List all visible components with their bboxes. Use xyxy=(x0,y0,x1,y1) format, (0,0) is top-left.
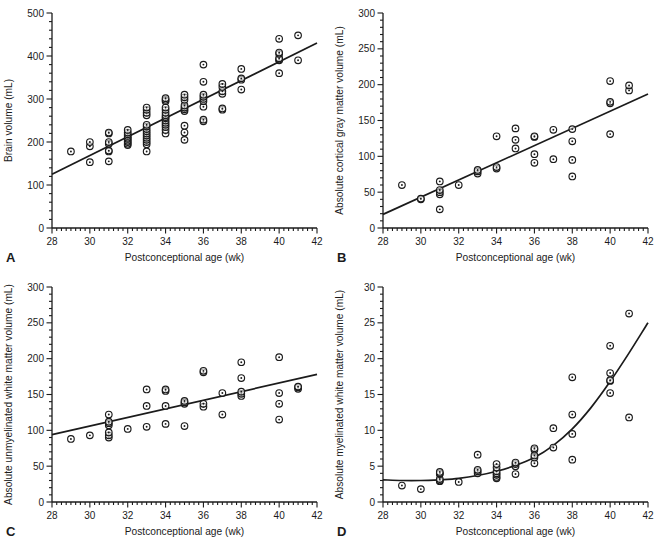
y-tick-label: 0 xyxy=(38,223,44,234)
data-point xyxy=(162,104,169,111)
data-point xyxy=(512,145,519,152)
y-tick-label: 250 xyxy=(358,43,375,54)
data-point xyxy=(105,147,112,154)
x-tick-label: 38 xyxy=(567,510,579,521)
data-point xyxy=(200,79,207,86)
panel-a-plot: 01002003004005002830323436384042Brain vo… xyxy=(0,0,331,274)
x-axis-ticks xyxy=(383,502,648,508)
panel-letter: C xyxy=(6,524,16,539)
x-axis-title: Postconceptional age (wk) xyxy=(456,252,575,263)
data-point xyxy=(436,178,443,185)
data-point xyxy=(238,86,245,93)
x-tick-label: 30 xyxy=(84,236,96,247)
data-point xyxy=(512,471,519,478)
data-point xyxy=(181,91,188,98)
y-tick-label: 400 xyxy=(27,51,44,62)
y-tick-label: 150 xyxy=(27,389,44,400)
data-point xyxy=(295,57,302,64)
y-axis-ticks xyxy=(378,287,384,502)
data-point xyxy=(569,173,576,180)
data-point xyxy=(200,116,207,123)
data-point xyxy=(607,131,614,138)
data-point xyxy=(569,157,576,164)
x-tick-label: 34 xyxy=(491,236,503,247)
y-axis-title: Brain volume (mL) xyxy=(3,79,14,162)
data-point xyxy=(276,401,283,408)
data-point xyxy=(550,444,557,451)
y-tick-label: 50 xyxy=(33,461,45,472)
data-point xyxy=(219,105,226,112)
data-point xyxy=(162,421,169,428)
data-point xyxy=(512,459,519,466)
y-tick-label: 250 xyxy=(27,317,44,328)
panel-a: 01002003004005002830323436384042Brain vo… xyxy=(0,0,331,274)
data-point xyxy=(531,445,538,452)
y-tick-label: 0 xyxy=(369,223,375,234)
data-point xyxy=(143,423,150,430)
y-axis-ticks xyxy=(47,287,53,502)
x-axis-ticks xyxy=(52,502,317,508)
data-point xyxy=(455,479,462,486)
data-point xyxy=(124,127,131,134)
data-point xyxy=(181,137,188,144)
data-point xyxy=(512,125,519,132)
data-point xyxy=(87,159,94,166)
data-point xyxy=(162,386,169,393)
y-tick-label: 300 xyxy=(27,282,44,293)
x-tick-label: 32 xyxy=(122,236,134,247)
y-tick-label: 0 xyxy=(38,497,44,508)
y-axis-title: Absolute myelinated white matter volume … xyxy=(334,290,345,500)
data-point xyxy=(105,418,112,425)
data-point xyxy=(143,104,150,111)
x-tick-label: 28 xyxy=(46,510,58,521)
y-axis-ticks xyxy=(378,13,384,228)
data-point xyxy=(607,78,614,85)
data-point xyxy=(569,456,576,463)
data-point xyxy=(550,127,557,134)
four-panel-scatter-figure: 01002003004005002830323436384042Brain vo… xyxy=(0,0,662,548)
data-points xyxy=(399,310,633,492)
x-tick-label: 38 xyxy=(236,510,248,521)
x-tick-label: 38 xyxy=(236,236,248,247)
data-point xyxy=(68,436,75,443)
y-tick-label: 300 xyxy=(27,94,44,105)
x-axis-title: Postconceptional age (wk) xyxy=(125,252,244,263)
data-point xyxy=(219,81,226,88)
data-point xyxy=(200,61,207,68)
y-tick-label: 50 xyxy=(364,187,376,198)
data-point xyxy=(200,91,207,98)
data-point xyxy=(238,66,245,73)
y-tick-label: 30 xyxy=(364,282,376,293)
data-point xyxy=(181,398,188,405)
data-point xyxy=(531,159,538,166)
data-point xyxy=(607,99,614,106)
data-point xyxy=(219,390,226,397)
data-point xyxy=(512,137,519,144)
y-tick-label: 10 xyxy=(364,425,376,436)
data-point xyxy=(181,122,188,129)
data-point xyxy=(493,133,500,140)
data-point xyxy=(531,151,538,158)
x-tick-label: 36 xyxy=(529,510,541,521)
axes xyxy=(52,13,317,228)
data-point xyxy=(124,426,131,433)
x-tick-label: 42 xyxy=(642,236,654,247)
data-point xyxy=(399,182,406,189)
data-point xyxy=(493,461,500,468)
data-point xyxy=(143,403,150,410)
data-point xyxy=(607,370,614,377)
x-tick-label: 42 xyxy=(311,236,323,247)
data-point xyxy=(200,401,207,408)
data-point xyxy=(276,354,283,361)
x-tick-label: 36 xyxy=(198,236,210,247)
data-point xyxy=(436,206,443,213)
y-axis-title: Absolute cortical gray matter volume (mL… xyxy=(334,26,345,215)
data-point xyxy=(87,139,94,146)
x-tick-label: 28 xyxy=(377,236,389,247)
data-point xyxy=(200,368,207,375)
y-tick-label: 5 xyxy=(369,461,375,472)
x-tick-label: 40 xyxy=(605,236,617,247)
data-point xyxy=(105,158,112,165)
x-axis-title: Postconceptional age (wk) xyxy=(456,526,575,537)
x-tick-label: 38 xyxy=(567,236,579,247)
